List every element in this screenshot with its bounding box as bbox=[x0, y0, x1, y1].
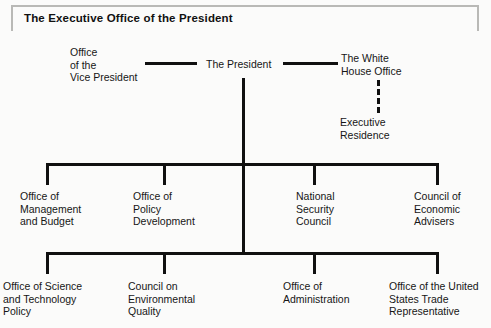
node-office-of-management-and-budget: Office of Management and Budget bbox=[20, 190, 81, 228]
drop-tier2-1 bbox=[46, 163, 49, 185]
connector-vice-president-to-president bbox=[145, 62, 197, 65]
drop-tier3-4 bbox=[436, 252, 439, 274]
drop-tier3-1 bbox=[46, 252, 49, 274]
drop-tier2-4 bbox=[436, 163, 439, 185]
frame-left-border bbox=[11, 5, 13, 31]
node-office-of-the-united-states-trade-representative: Office of the United States Trade Repres… bbox=[389, 280, 479, 318]
node-national-security-council: National Security Council bbox=[296, 190, 335, 228]
chart-title: The Executive Office of the President bbox=[24, 12, 233, 24]
frame-top-border bbox=[11, 5, 479, 7]
node-office-of-administration: Office of Administration bbox=[283, 280, 350, 305]
node-office-of-policy-development: Office of Policy Development bbox=[133, 190, 195, 228]
bus-tier3 bbox=[46, 252, 439, 255]
bus-tier2 bbox=[46, 163, 439, 166]
frame-right-border bbox=[477, 5, 479, 31]
node-the-president: The President bbox=[206, 58, 271, 71]
drop-tier2-2 bbox=[163, 163, 166, 185]
drop-tier2-3 bbox=[313, 163, 316, 185]
node-office-of-the-vice-president: Office of the Vice President bbox=[70, 46, 138, 84]
connector-white-house-office-to-executive-residence bbox=[377, 80, 380, 113]
node-council-on-environmental-quality: Council on Environmental Quality bbox=[128, 280, 195, 318]
stem-president-main bbox=[242, 78, 245, 255]
drop-tier3-3 bbox=[313, 252, 316, 274]
node-executive-residence: Executive Residence bbox=[340, 116, 390, 141]
drop-tier3-2 bbox=[163, 252, 166, 274]
node-council-of-economic-advisers: Council of Economic Advisers bbox=[414, 190, 461, 228]
connector-president-to-white-house-office bbox=[283, 62, 338, 65]
node-the-white-house-office: The White House Office bbox=[341, 52, 402, 77]
org-chart-figure: The Executive Office of the President Of… bbox=[0, 0, 491, 328]
node-office-of-science-and-technology-policy: Office of Science and Technology Policy bbox=[3, 280, 82, 318]
